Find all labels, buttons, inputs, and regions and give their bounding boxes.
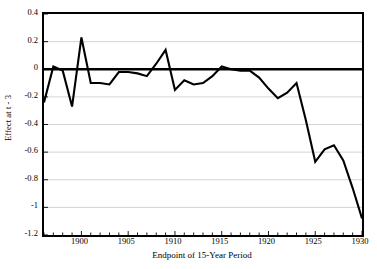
x-axis-tick-label: 1910: [164, 237, 181, 246]
plot-inner: [44, 14, 362, 235]
y-axis-tick-label: -1: [14, 201, 41, 210]
axis-tick-marks: [44, 14, 362, 235]
y-axis-tick-label: -0.6: [14, 146, 41, 155]
y-axis-tick-label: -0.8: [14, 174, 41, 183]
y-axis-tick-label: 0: [14, 63, 41, 72]
x-axis-tick-label: 1925: [305, 237, 322, 246]
x-axis-title: Endpoint of 15-Year Period: [42, 250, 362, 260]
chart-figure: Effect at t - 3 0.40.20-0.2-0.4-0.6-0.8-…: [0, 0, 377, 269]
x-axis-tick-label: 1915: [211, 237, 228, 246]
y-axis-tick-label: 0.4: [14, 8, 41, 17]
y-axis-tick-label: 0.2: [14, 35, 41, 44]
x-axis-tick-label: 1900: [71, 237, 88, 246]
x-axis-tick-labels: 1900190519101915192019251930: [0, 237, 377, 249]
y-axis-title: Effect at t - 3: [3, 95, 13, 141]
y-axis-tick-label: -0.2: [14, 91, 41, 100]
x-axis-tick-label: 1905: [118, 237, 135, 246]
y-axis-tick-labels: 0.40.20-0.2-0.4-0.6-0.8-1-1.2: [14, 0, 41, 269]
y-axis-tick-label: -0.4: [14, 118, 41, 127]
y-axis-tick-label: -1.2: [14, 229, 41, 238]
x-axis-tick-label: 1920: [258, 237, 275, 246]
plot-area: [42, 12, 364, 237]
x-axis-tick-label: 1930: [352, 237, 369, 246]
